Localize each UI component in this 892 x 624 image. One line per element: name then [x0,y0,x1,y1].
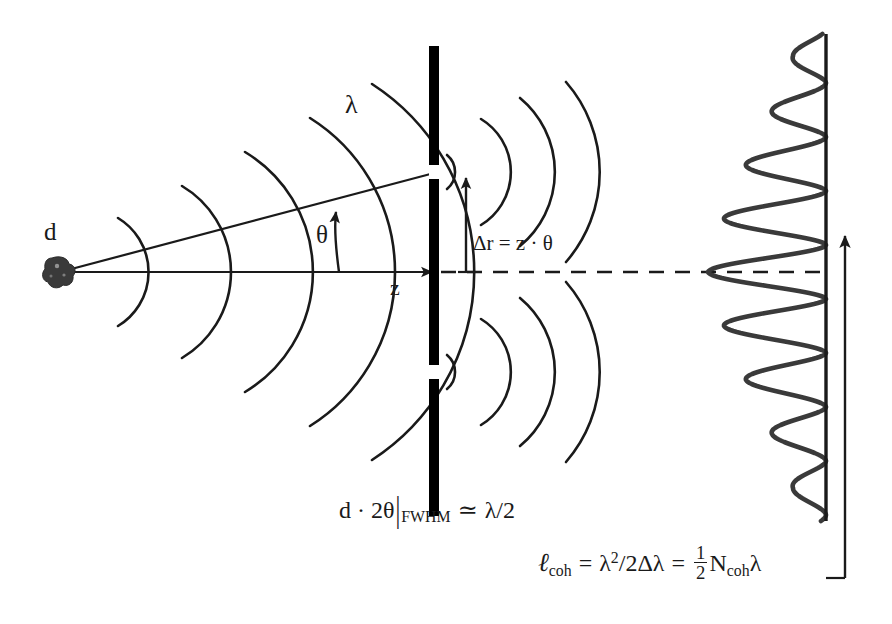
coherence-lambda-base: λ [599,550,611,576]
fraction-numerator: 1 [694,543,707,562]
diffracted-arc-u2 [481,119,511,225]
upper-slit [429,165,439,179]
fraction-denominator: 2 [694,562,707,582]
fwhm-eval-bar: | [396,491,401,530]
coherence-length-equation: ℓcoh=λ2/2Δλ=12Ncohλ [538,543,761,582]
fwhm-relation: ≃ [458,497,478,523]
point-source [43,257,75,288]
coherence-lambda-tail: λ [750,550,762,576]
lower-slit [429,365,439,379]
coherence-length-arrow [826,236,845,578]
coherence-equals-1: = [579,550,593,576]
diffracted-arc-l3 [520,298,555,446]
theta-angle-arrow [335,212,339,272]
figure-canvas [0,0,892,624]
diffracted-waves-lower [447,282,600,462]
interference-fringe-curve [708,34,826,521]
diagonal-ray [60,172,438,272]
source-size-label: d [44,219,57,244]
fwhm-lead: d · 2θ [339,497,395,523]
diffracted-arc-u3 [520,98,555,246]
diffracted-arc-l4 [566,282,600,462]
coherence-lambda-exponent: 2 [611,549,619,566]
coherence-symbol: ℓ [538,548,549,577]
diffraction-coherence-figure: d λ θ z Δr = z · θ d · 2θ|FWHM≃λ/2 ℓcoh=… [0,0,892,624]
barrier-segment-middle [429,179,439,365]
coherence-one-half: 12 [694,543,707,582]
theta-label: θ [316,222,328,247]
coherence-symbol-subscript: coh [549,562,572,579]
double-slit-barrier [429,46,439,516]
fwhm-rhs: λ/2 [485,497,515,523]
coherence-equals-2: = [672,550,686,576]
diffracted-arc-u4 [566,82,600,262]
coherence-term1-rest: /2Δλ [619,550,665,576]
coherence-N-subscript: coh [727,562,750,579]
coherence-N-base: N [709,550,726,576]
z-distance-label: z [390,277,400,299]
wavelength-label: λ [345,92,358,118]
path-difference-label: Δr = z · θ [473,233,553,254]
diffracted-arc-l2 [481,319,511,425]
barrier-segment-top [429,46,439,165]
fwhm-equation: d · 2θ|FWHM≃λ/2 [339,496,515,526]
fwhm-subscript: FWHM [401,508,450,525]
